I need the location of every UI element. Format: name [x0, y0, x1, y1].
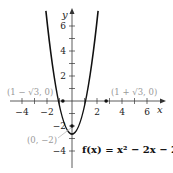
- x-tick-label: 6: [144, 107, 150, 117]
- y-tick-label: 6: [60, 21, 66, 31]
- function-label: f(x) = x² − 2x − 2: [82, 144, 173, 155]
- y-intercept-point: [70, 124, 74, 128]
- x-axis-arrow-icon: [160, 99, 166, 104]
- x-axis-label: x: [157, 104, 163, 115]
- left-root-point: [61, 99, 65, 103]
- left-root-label: (1 − √3, 0): [7, 87, 53, 97]
- y-axis-label: y: [61, 9, 68, 20]
- x-tick-label: 4: [119, 107, 125, 117]
- y-intercept-label: (0, −2): [27, 135, 57, 145]
- y-tick-label: 4: [60, 46, 66, 56]
- x-tick-label: 2: [94, 107, 100, 117]
- x-tick-label: −2: [40, 107, 53, 117]
- x-tick-label: −4: [15, 107, 29, 117]
- y-axis-arrow-icon: [70, 8, 75, 14]
- right-root-label: (1 + √3, 0): [111, 87, 157, 97]
- y-tick-label: 2: [60, 71, 66, 81]
- function-graph: −4 −2 2 4 6 6 4 2 −2 −4 x y (1 − √3, 0) …: [0, 0, 173, 173]
- y-tick-label: −4: [53, 146, 67, 156]
- right-root-point: [104, 99, 108, 103]
